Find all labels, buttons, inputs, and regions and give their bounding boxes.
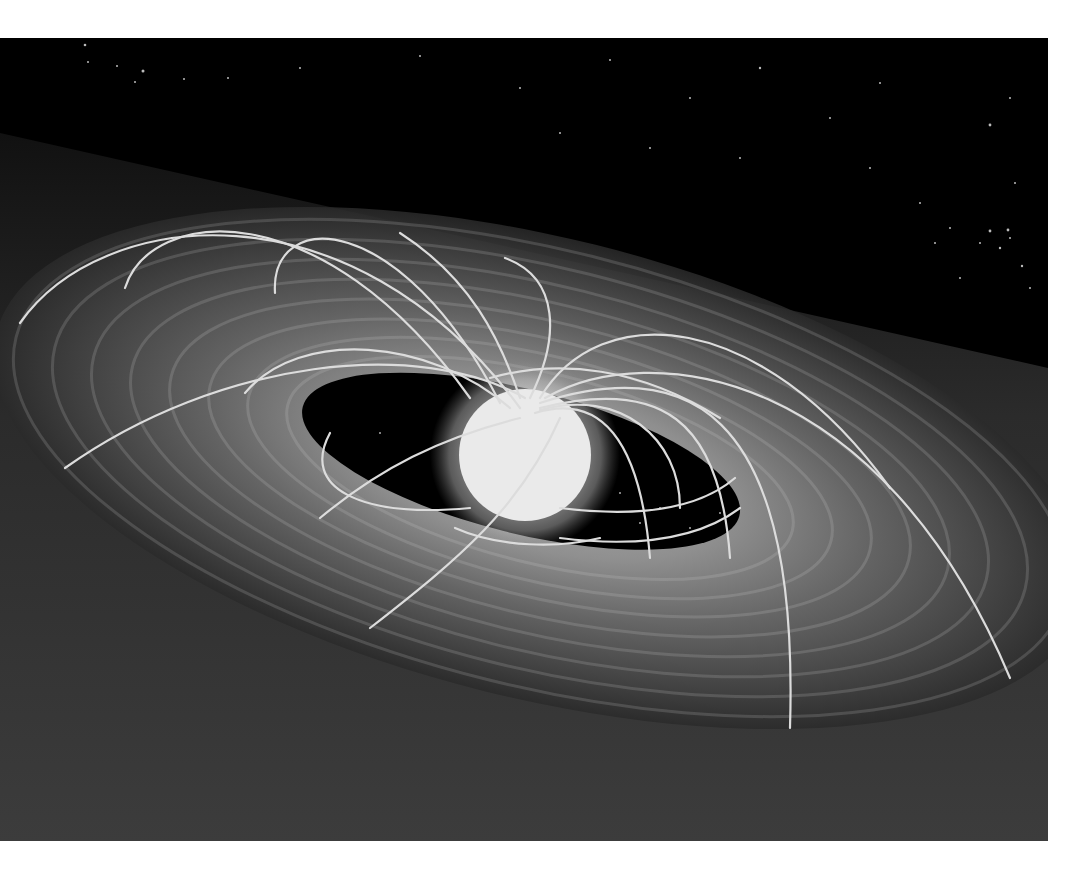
star-disk-illustration: [0, 38, 1048, 841]
illustration-frame: [0, 38, 1048, 841]
